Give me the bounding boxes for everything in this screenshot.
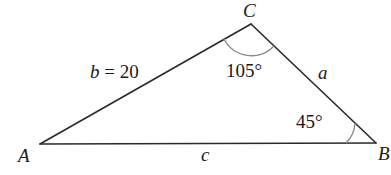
- vertex-label-b: B: [378, 143, 390, 164]
- vertex-label-a: A: [16, 145, 30, 166]
- angle-arc-b: [346, 123, 355, 143]
- side-label-c: c: [201, 144, 210, 165]
- triangle-figure: C A B b = 20 a c 105° 45°: [0, 0, 391, 175]
- triangle-diagram: C A B b = 20 a c 105° 45°: [0, 0, 391, 175]
- angle-arc-c: [224, 39, 274, 56]
- angle-label-c: 105°: [226, 60, 262, 81]
- angle-label-b: 45°: [296, 111, 323, 132]
- side-label-a: a: [318, 62, 328, 83]
- side-label-b: b = 20: [90, 61, 139, 82]
- side-b: [40, 24, 251, 144]
- vertex-label-c: C: [243, 0, 256, 21]
